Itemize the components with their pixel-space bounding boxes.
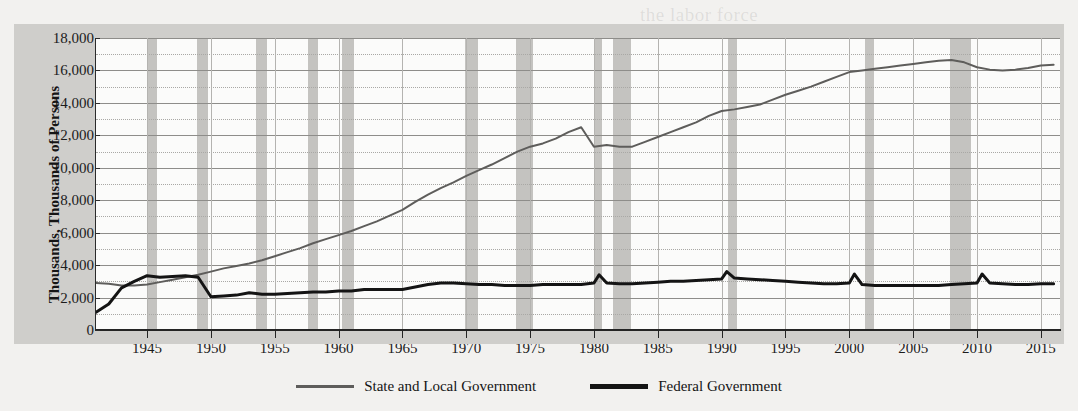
y-tick-mark xyxy=(95,298,100,299)
series-lines-group xyxy=(96,38,1060,330)
x-tick-mark xyxy=(147,331,148,338)
legend-label: State and Local Government xyxy=(364,378,536,395)
y-tick-mark xyxy=(95,135,100,136)
x-axis-line xyxy=(95,329,1061,331)
x-tick-mark xyxy=(594,331,595,338)
x-tick-mark xyxy=(849,331,850,338)
x-tick-mark xyxy=(402,331,403,338)
legend-item: State and Local Government xyxy=(296,378,536,395)
y-tick-mark xyxy=(95,200,100,201)
x-tick-mark xyxy=(722,331,723,338)
y-axis-title: Thousands, Thousands of Persons xyxy=(46,45,63,345)
plot-area xyxy=(96,38,1060,330)
chart-legend: State and Local GovernmentFederal Govern… xyxy=(0,378,1078,395)
legend-line-swatch xyxy=(296,385,354,388)
y-tick-mark xyxy=(95,103,100,104)
x-tick-mark xyxy=(339,331,340,338)
series-line xyxy=(96,60,1054,285)
legend-item: Federal Government xyxy=(590,378,782,395)
x-tick-mark xyxy=(1041,331,1042,338)
x-tick-mark xyxy=(466,331,467,338)
series-line xyxy=(96,272,1054,313)
y-tick-mark xyxy=(95,265,100,266)
x-tick-mark xyxy=(211,331,212,338)
y-axis-line xyxy=(95,38,96,330)
x-tick-mark xyxy=(977,331,978,338)
y-tick-mark xyxy=(95,233,100,234)
x-tick-mark xyxy=(658,331,659,338)
legend-line-swatch xyxy=(590,384,648,389)
bleed-text: the labor force xyxy=(640,4,758,26)
x-tick-mark xyxy=(530,331,531,338)
y-tick-mark xyxy=(95,330,100,331)
y-tick-mark xyxy=(95,168,100,169)
legend-label: Federal Government xyxy=(658,378,782,395)
y-tick-mark xyxy=(95,70,100,71)
x-tick-mark xyxy=(785,331,786,338)
x-tick-mark xyxy=(275,331,276,338)
y-tick-mark xyxy=(95,38,100,39)
x-tick-mark xyxy=(913,331,914,338)
